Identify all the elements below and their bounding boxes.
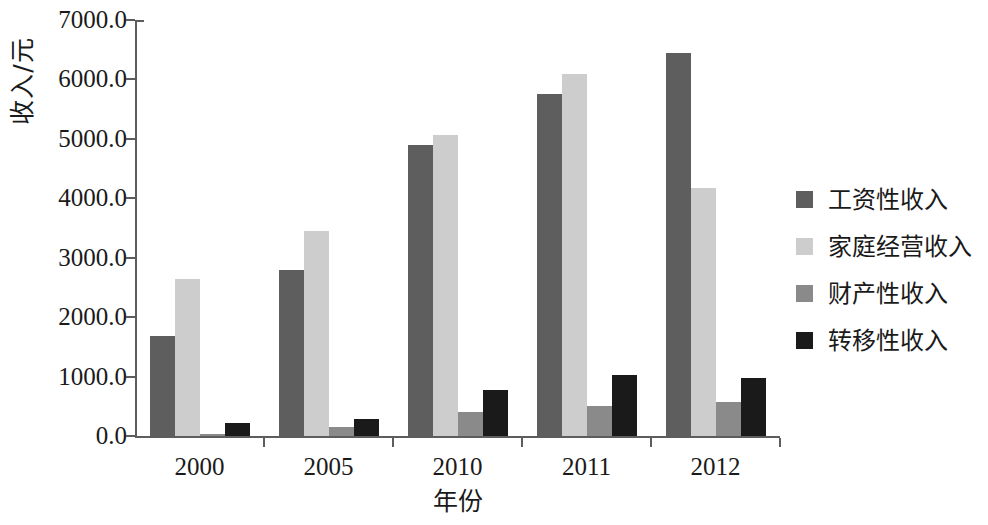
bar bbox=[741, 378, 766, 436]
bar bbox=[537, 94, 562, 436]
x-axis-title: 年份 bbox=[135, 487, 780, 517]
y-axis-tick-label: 0.0 bbox=[26, 423, 127, 448]
y-axis-tick bbox=[126, 197, 135, 199]
x-axis-tick-label: 2012 bbox=[691, 452, 741, 482]
bar bbox=[304, 231, 329, 436]
legend-label: 转移性收入 bbox=[828, 329, 948, 353]
bar bbox=[433, 135, 458, 436]
y-axis-tick-label: 5000.0 bbox=[26, 126, 127, 151]
x-axis-tick-label: 2011 bbox=[562, 452, 611, 482]
plot-area bbox=[135, 20, 780, 438]
bar bbox=[612, 375, 637, 436]
x-axis-tick bbox=[392, 438, 394, 447]
bar bbox=[458, 412, 483, 436]
x-axis-tick-label: 2000 bbox=[175, 452, 225, 482]
y-axis-tick bbox=[126, 435, 135, 437]
x-axis-tick bbox=[521, 438, 523, 447]
legend-label: 财产性收入 bbox=[828, 282, 948, 306]
bar bbox=[150, 336, 175, 436]
x-axis-tick bbox=[779, 438, 781, 447]
legend-item[interactable]: 家庭经营收入 bbox=[796, 223, 986, 270]
y-axis-tick-labels: 0.01000.02000.03000.04000.05000.06000.07… bbox=[26, 0, 127, 460]
x-axis-tick bbox=[650, 438, 652, 447]
legend-swatch-icon bbox=[796, 191, 813, 208]
x-axis-spine bbox=[135, 436, 780, 438]
bar bbox=[279, 270, 304, 436]
legend-item[interactable]: 财产性收入 bbox=[796, 270, 986, 317]
bar bbox=[175, 279, 200, 436]
y-axis-top-cap bbox=[135, 20, 144, 22]
y-axis-tick-label: 2000.0 bbox=[26, 304, 127, 329]
y-axis-tick bbox=[126, 257, 135, 259]
bar bbox=[716, 402, 741, 436]
y-axis-tick bbox=[126, 19, 135, 21]
y-axis-tick-label: 3000.0 bbox=[26, 245, 127, 270]
x-axis-tick-label: 2005 bbox=[304, 452, 354, 482]
bar bbox=[225, 423, 250, 436]
legend-swatch-icon bbox=[796, 285, 813, 302]
y-axis-tick bbox=[126, 376, 135, 378]
y-axis-tick-label: 1000.0 bbox=[26, 364, 127, 389]
legend-label: 工资性收入 bbox=[828, 188, 948, 212]
y-axis-tick bbox=[126, 138, 135, 140]
x-axis-tick-label: 2010 bbox=[433, 452, 483, 482]
bar bbox=[562, 74, 587, 437]
bar bbox=[200, 434, 225, 436]
legend-swatch-icon bbox=[796, 238, 813, 255]
x-axis-tick-labels: 20002005201020112012 bbox=[135, 452, 780, 486]
y-axis-tick-label: 7000.0 bbox=[26, 7, 127, 32]
bar bbox=[329, 427, 354, 436]
legend: 工资性收入家庭经营收入财产性收入转移性收入 bbox=[796, 176, 986, 364]
y-axis-tick bbox=[126, 78, 135, 80]
y-axis-tick-label: 6000.0 bbox=[26, 66, 127, 91]
bar bbox=[408, 145, 433, 436]
bar bbox=[691, 188, 716, 436]
bar bbox=[587, 406, 612, 436]
bar bbox=[354, 419, 379, 436]
legend-label: 家庭经营收入 bbox=[828, 235, 972, 259]
y-axis-tick-label: 4000.0 bbox=[26, 185, 127, 210]
legend-swatch-icon bbox=[796, 332, 813, 349]
bar bbox=[483, 390, 508, 436]
bar bbox=[666, 53, 691, 436]
legend-item[interactable]: 转移性收入 bbox=[796, 317, 986, 364]
x-axis-tick bbox=[263, 438, 265, 447]
y-axis-tick bbox=[126, 316, 135, 318]
y-axis-spine bbox=[135, 20, 137, 438]
bar-chart: 收入/元 0.01000.02000.03000.04000.05000.060… bbox=[0, 0, 988, 525]
legend-item[interactable]: 工资性收入 bbox=[796, 176, 986, 223]
